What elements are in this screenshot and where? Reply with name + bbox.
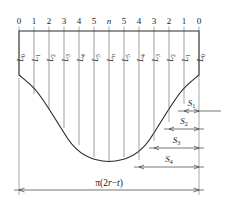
tick-label-3-right: 3 bbox=[152, 16, 157, 26]
tick-label-4-left: 4 bbox=[77, 16, 82, 26]
tick-label-5-left: 5 bbox=[92, 16, 97, 26]
label-L3-right: L3 bbox=[150, 54, 161, 63]
label-L0-right: L0 bbox=[195, 54, 206, 63]
label-S4: S4 bbox=[165, 154, 173, 165]
label-S1: S1 bbox=[188, 98, 196, 109]
label-L5-left: L5 bbox=[90, 54, 101, 63]
label-developed-circumference: π(2r−t) bbox=[95, 178, 123, 189]
label-S2: S2 bbox=[180, 116, 188, 127]
label-L2-left: L2 bbox=[45, 54, 56, 63]
label-L5-right: L5 bbox=[120, 54, 131, 63]
tick-label-2-right: 2 bbox=[167, 16, 172, 26]
dimension-S2: S2 bbox=[164, 116, 204, 131]
dimension-S1: S1 bbox=[178, 98, 221, 113]
label-S3: S3 bbox=[173, 135, 181, 146]
tick-label-5-right: 5 bbox=[122, 16, 127, 26]
label-L0-left: L0 bbox=[15, 54, 26, 63]
tick-label-3-left: 3 bbox=[62, 16, 67, 26]
top-scale-ticks bbox=[19, 27, 199, 32]
tick-label-1-right: 1 bbox=[182, 16, 187, 26]
tick-label-4-right: 4 bbox=[137, 16, 142, 26]
tick-label-0-left: 0 bbox=[17, 16, 22, 26]
generatrix-length-label-group: L0 L1 L2 L3 L4 L5 Ln L5 L4 L3 L2 L1 L0 bbox=[15, 54, 206, 63]
tick-label-1-left: 1 bbox=[32, 16, 37, 26]
technical-drawing-figure: 0 1 2 3 4 5 n 5 4 3 2 1 0 L0 bbox=[0, 0, 229, 220]
label-L1-left: L1 bbox=[30, 54, 41, 63]
generatrix-grid-lines bbox=[34, 31, 184, 161]
dimension-S4: S4 bbox=[134, 154, 204, 169]
label-Ln: Ln bbox=[105, 54, 116, 63]
label-L1-right: L1 bbox=[180, 54, 191, 63]
dimension-S3: S3 bbox=[149, 135, 204, 150]
label-L4-right: L4 bbox=[135, 54, 146, 63]
tick-label-2-left: 2 bbox=[47, 16, 52, 26]
label-L4-left: L4 bbox=[75, 54, 86, 63]
label-L3-left: L3 bbox=[60, 54, 71, 63]
label-L2-right: L2 bbox=[165, 54, 176, 63]
tick-label-0-right: 0 bbox=[197, 16, 202, 26]
tick-label-n: n bbox=[107, 16, 112, 26]
